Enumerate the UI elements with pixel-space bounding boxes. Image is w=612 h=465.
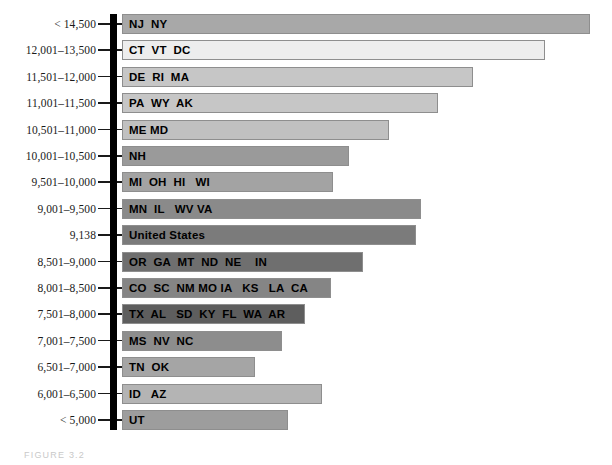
y-axis-tick-labels: < 14,50012,001–13,50011,501–12,00011,001…: [0, 0, 96, 465]
bar: [122, 410, 288, 430]
bar-label: ID AZ: [129, 384, 166, 404]
bar-label: CT VT DC: [129, 40, 190, 60]
tick-mark: [98, 23, 110, 25]
tick-mark: [98, 155, 110, 157]
bar-row: CT VT DC: [122, 40, 545, 60]
y-axis-tick-label: 6,501–7,000: [0, 357, 96, 377]
bar-row: PA WY AK: [122, 93, 438, 113]
tick-mark: [98, 366, 110, 368]
bar-label: NH: [129, 146, 146, 166]
bar-chart: < 14,50012,001–13,50011,501–12,00011,001…: [0, 0, 612, 465]
bar: [122, 14, 590, 34]
y-axis-tick-label: 11,501–12,000: [0, 67, 96, 87]
bar-row: ME MD: [122, 120, 389, 140]
tick-mark: [98, 76, 110, 78]
bar-label: TX AL SD KY FL WA AR: [129, 304, 285, 324]
y-axis-tick-label: 9,501–10,000: [0, 172, 96, 192]
bar-label: PA WY AK: [129, 93, 193, 113]
y-axis-tick-label: 10,501–11,000: [0, 120, 96, 140]
tick-mark: [98, 340, 110, 342]
bar-row: MI OH HI WI: [122, 172, 333, 192]
y-axis-tick-label: 9,138: [0, 225, 96, 245]
bar-row: ID AZ: [122, 384, 322, 404]
y-axis-tick-label: 7,001–7,500: [0, 331, 96, 351]
bar: [122, 146, 349, 166]
y-axis-tick-label: < 14,500: [0, 14, 96, 34]
bar-row: OR GA MT ND NE IN: [122, 252, 363, 272]
tick-mark: [98, 208, 110, 210]
vertical-axis-spine: [110, 14, 117, 430]
y-axis-tick-label: 9,001–9,500: [0, 199, 96, 219]
bar-row: MS NV NC: [122, 331, 282, 351]
bar-label: ME MD: [129, 120, 168, 140]
y-axis-tick-label: 12,001–13,500: [0, 40, 96, 60]
y-axis-tick-label: < 5,000: [0, 410, 96, 430]
bar-row: TX AL SD KY FL WA AR: [122, 304, 305, 324]
bar-row: United States: [122, 225, 416, 245]
tick-mark: [98, 49, 110, 51]
tick-mark: [98, 129, 110, 131]
bar-row: NH: [122, 146, 349, 166]
tick-mark: [98, 287, 110, 289]
y-axis-tick-label: 11,001–11,500: [0, 93, 96, 113]
bar-row: UT: [122, 410, 288, 430]
bar-label: United States: [129, 225, 205, 245]
tick-mark: [98, 393, 110, 395]
tick-mark: [98, 313, 110, 315]
tick-mark: [98, 234, 110, 236]
tick-mark: [98, 419, 110, 421]
bar-label: MS NV NC: [129, 331, 194, 351]
bar-label: NJ NY: [129, 14, 167, 34]
bar-label: CO SC NM MO IA KS LA CA: [129, 278, 308, 298]
bar-row: MN IL WV VA: [122, 199, 421, 219]
y-axis-tick-label: 7,501–8,000: [0, 304, 96, 324]
bar-label: TN OK: [129, 357, 169, 377]
tick-mark: [98, 102, 110, 104]
figure-caption: FIGURE 3.2: [24, 450, 85, 460]
y-axis-tick-label: 6,001–6,500: [0, 384, 96, 404]
bar-label: MI OH HI WI: [129, 172, 210, 192]
bar-row: DE RI MA: [122, 67, 473, 87]
y-axis-tick-label: 8,501–9,000: [0, 252, 96, 272]
bar-label: MN IL WV VA: [129, 199, 213, 219]
bar-label: DE RI MA: [129, 67, 189, 87]
y-axis-tick-label: 10,001–10,500: [0, 146, 96, 166]
bar-row: CO SC NM MO IA KS LA CA: [122, 278, 331, 298]
y-axis-tick-label: 8,001–8,500: [0, 278, 96, 298]
tick-mark: [98, 261, 110, 263]
bar-label: UT: [129, 410, 145, 430]
bar-label: OR GA MT ND NE IN: [129, 252, 267, 272]
tick-mark: [98, 181, 110, 183]
bar-row: TN OK: [122, 357, 255, 377]
bar-row: NJ NY: [122, 14, 590, 34]
